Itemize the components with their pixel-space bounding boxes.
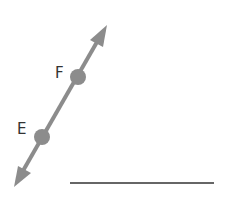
line-ef xyxy=(14,25,107,187)
label-e: E xyxy=(17,120,26,138)
point-e xyxy=(34,129,50,145)
arrowhead-top-icon xyxy=(90,25,107,47)
point-f xyxy=(70,69,86,85)
arrowhead-bottom-icon xyxy=(14,166,31,187)
label-f: F xyxy=(55,64,64,82)
geometry-diagram: F E xyxy=(0,0,225,197)
